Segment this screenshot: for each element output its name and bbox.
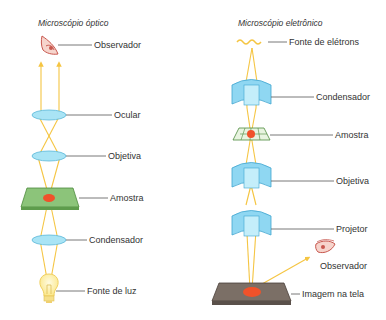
electron-title: Microscópio eletrônico	[238, 18, 323, 28]
optical-objective-label: Objetiva	[108, 151, 141, 161]
electron-condenser-lens	[232, 80, 271, 106]
optical-light-rays	[38, 64, 60, 290]
electron-projector-label: Projetor	[336, 224, 368, 234]
optical-title: Microscópio óptico	[38, 18, 109, 28]
eyepiece-lens	[32, 110, 66, 120]
electron-observer-label: Observador	[320, 261, 367, 271]
electron-source-wave-icon	[237, 40, 261, 44]
optical-microscope: Microscópio óptico Observador Ocular	[21, 18, 144, 303]
image-screen	[212, 283, 291, 305]
optical-sample-label: Amostra	[110, 193, 144, 203]
electron-projector-lens	[232, 211, 271, 237]
sample-slide	[21, 188, 79, 210]
condenser-lens	[32, 235, 66, 245]
light-bulb-icon	[40, 274, 58, 303]
electron-source-label: Fonte de elétrons	[289, 37, 360, 47]
optical-eyepiece-label: Ocular	[114, 110, 141, 120]
electron-screen-image-label: Imagem na tela	[302, 289, 364, 299]
optical-light-source-label: Fonte de luz	[87, 286, 137, 296]
electron-microscope: Microscópio eletrônico Fonte de elétrons	[212, 18, 370, 305]
electron-sample-grid	[233, 128, 270, 140]
electron-sample-label: Amostra	[335, 130, 369, 140]
microscope-comparison-diagram: Microscópio óptico Observador Ocular	[0, 0, 386, 320]
eye-icon	[316, 240, 335, 253]
optical-observer-label: Observador	[94, 40, 141, 50]
electron-objective-label: Objetiva	[336, 176, 369, 186]
electron-objective-lens	[232, 163, 271, 189]
objective-lens	[32, 151, 66, 161]
optical-condenser-label: Condensador	[89, 235, 143, 245]
eye-icon	[41, 36, 58, 54]
electron-condenser-label: Condensador	[316, 92, 370, 102]
